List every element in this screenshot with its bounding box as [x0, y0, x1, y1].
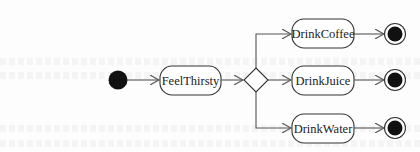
final-node [385, 24, 406, 45]
edge-decision-to-drinkwater [256, 92, 291, 128]
state-drinkjuice: DrinkJuice [292, 66, 354, 95]
decision-node [244, 68, 268, 92]
state-drinkwater-label: DrinkWater [294, 122, 354, 136]
final-node [385, 70, 406, 91]
state-drinkcoffee: DrinkCoffee [292, 19, 355, 48]
state-drinkwater: DrinkWater [292, 114, 354, 143]
initial-node [109, 71, 128, 90]
edge-decision-to-drinkcoffee [256, 34, 291, 68]
state-drinkjuice-label: DrinkJuice [296, 74, 351, 88]
activity-diagram: FeelThirsty DrinkCoffee DrinkJuice Drink… [0, 0, 420, 152]
state-drinkcoffee-label: DrinkCoffee [292, 27, 355, 41]
final-node [385, 118, 406, 139]
state-feelthirsty: FeelThirsty [160, 66, 221, 95]
state-feelthirsty-label: FeelThirsty [162, 74, 220, 88]
